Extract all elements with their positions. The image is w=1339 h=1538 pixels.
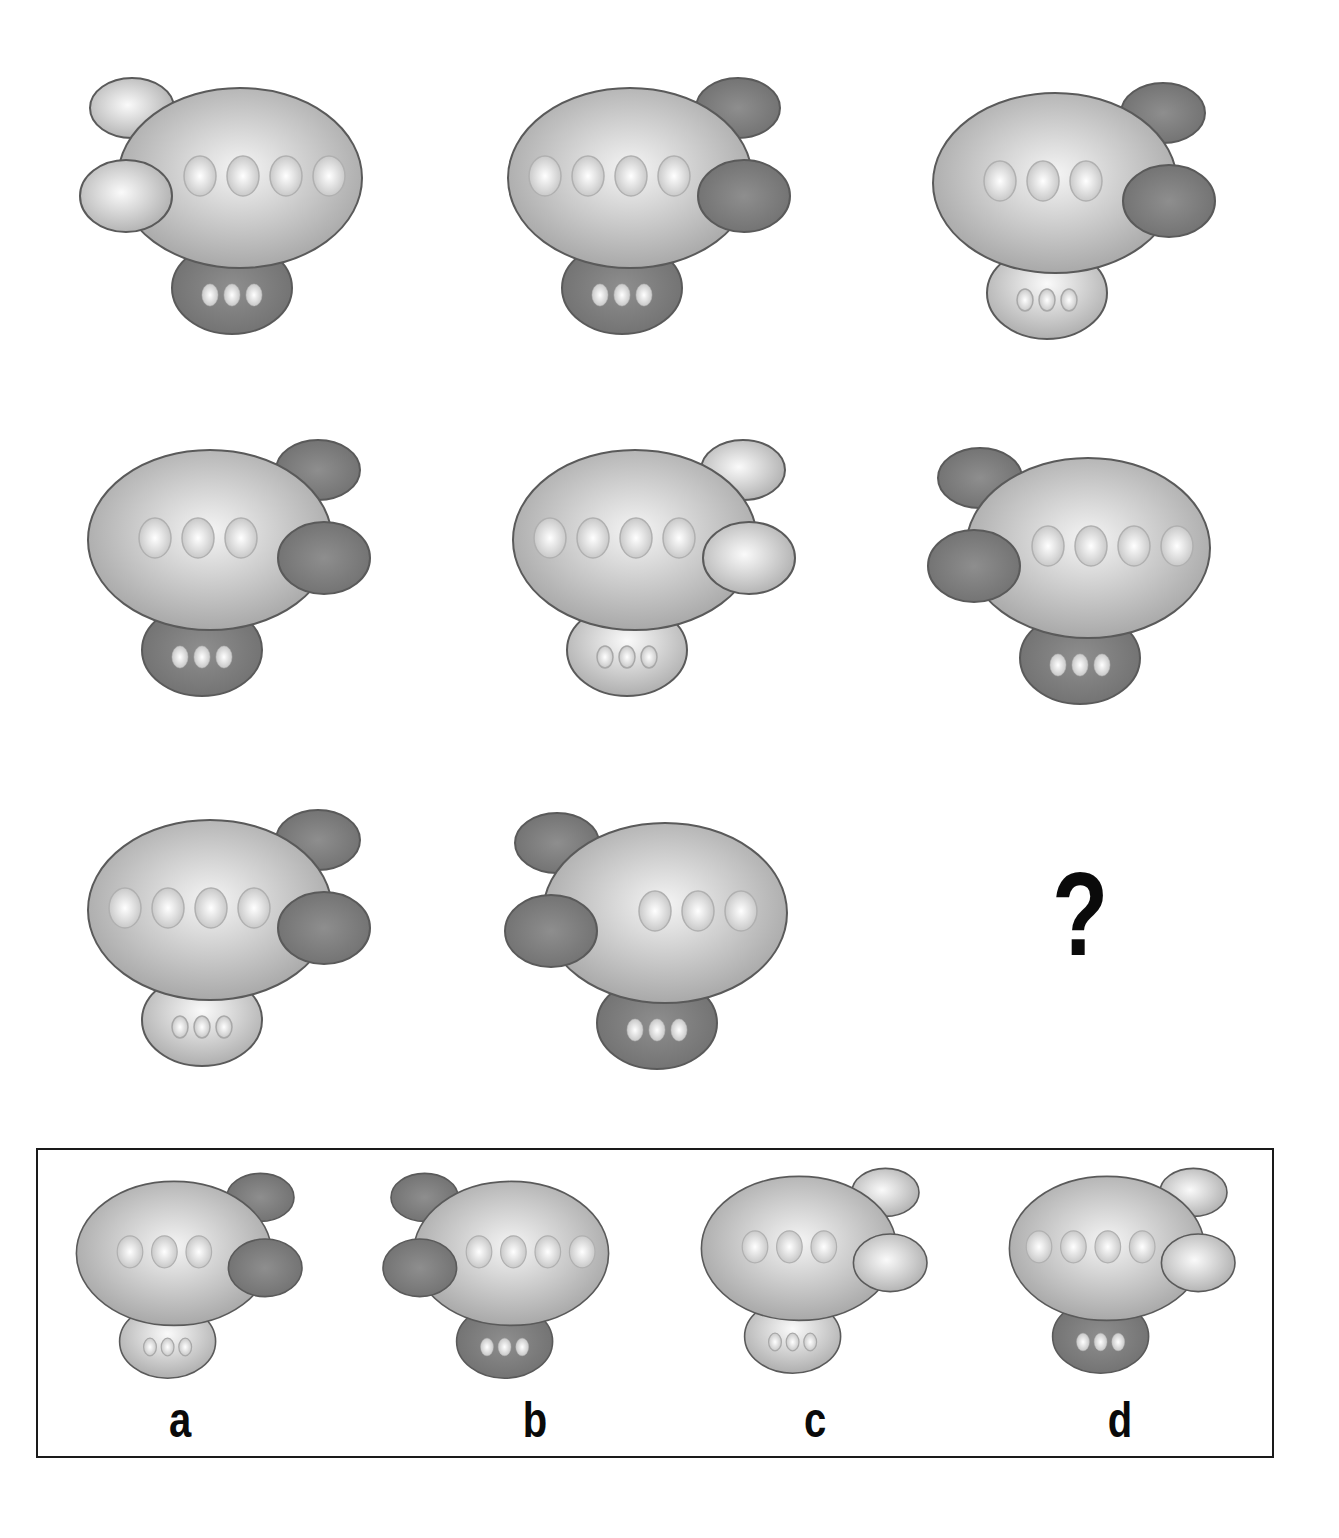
base-window-icon (1112, 1333, 1125, 1351)
base-window-icon (1094, 1333, 1107, 1351)
lower-pod-icon (505, 895, 597, 967)
lower-pod-icon (1161, 1234, 1235, 1292)
body-window-icon (572, 156, 604, 196)
body-window-icon (663, 518, 695, 558)
base-window-icon (786, 1333, 799, 1351)
lower-pod-icon (383, 1239, 457, 1297)
body-window-icon (811, 1231, 837, 1263)
grid-figure-6 (928, 450, 1228, 710)
body-window-icon (109, 888, 141, 928)
base-window-icon (1077, 1333, 1090, 1351)
body-window-icon (1026, 1231, 1052, 1263)
base-window-icon (1039, 289, 1055, 311)
lower-pod-icon (698, 160, 790, 232)
option-d-label[interactable]: d (1096, 1395, 1144, 1445)
option-b-figure[interactable] (383, 1175, 623, 1383)
grid-figure-7 (80, 812, 380, 1072)
body-window-icon (1075, 526, 1107, 566)
body-window-icon (117, 1236, 143, 1268)
base-window-icon (481, 1338, 494, 1356)
base-window-icon (179, 1338, 192, 1356)
option-a-label[interactable]: a (156, 1395, 204, 1445)
body-window-icon (270, 156, 302, 196)
body-window-icon (615, 156, 647, 196)
body-window-icon (1118, 526, 1150, 566)
base-window-icon (216, 1016, 232, 1038)
grid-figure-5 (505, 442, 805, 702)
base-window-icon (671, 1019, 687, 1041)
body-window-icon (313, 156, 345, 196)
body-window-icon (639, 891, 671, 931)
base-window-icon (144, 1338, 157, 1356)
grid-figure-2 (500, 80, 800, 340)
base-window-icon (597, 646, 613, 668)
body-window-icon (984, 161, 1016, 201)
base-window-icon (769, 1333, 782, 1351)
grid-figure-8 (505, 815, 805, 1075)
base-window-icon (804, 1333, 817, 1351)
body-window-icon (1095, 1231, 1121, 1263)
body-window-icon (466, 1236, 492, 1268)
option-c-label[interactable]: c (791, 1395, 839, 1445)
base-window-icon (161, 1338, 174, 1356)
lower-pod-icon (928, 530, 1020, 602)
base-window-icon (202, 284, 218, 306)
base-window-icon (194, 646, 210, 668)
body-window-icon (577, 518, 609, 558)
option-a-figure[interactable] (70, 1175, 310, 1383)
body-window-icon (195, 888, 227, 928)
base-window-icon (498, 1338, 511, 1356)
body-window-icon (225, 518, 257, 558)
body-window-icon (534, 518, 566, 558)
base-window-icon (1050, 654, 1066, 676)
base-window-icon (172, 1016, 188, 1038)
body-window-icon (152, 1236, 178, 1268)
body-window-icon (1129, 1231, 1155, 1263)
option-b-label[interactable]: b (511, 1395, 559, 1445)
missing-figure-question-mark: ? (1045, 855, 1115, 973)
base-window-icon (649, 1019, 665, 1041)
body-window-icon (569, 1236, 595, 1268)
body-window-icon (1161, 526, 1193, 566)
base-window-icon (516, 1338, 529, 1356)
base-window-icon (627, 1019, 643, 1041)
lower-pod-icon (703, 522, 795, 594)
base-window-icon (224, 284, 240, 306)
grid-figure-4 (80, 442, 380, 702)
lower-pod-icon (1123, 165, 1215, 237)
lower-pod-icon (80, 160, 172, 232)
base-window-icon (194, 1016, 210, 1038)
body-window-icon (1070, 161, 1102, 201)
base-window-icon (1017, 289, 1033, 311)
option-d-figure[interactable] (1003, 1170, 1243, 1378)
lower-pod-icon (278, 892, 370, 964)
body-window-icon (1032, 526, 1064, 566)
body-window-icon (742, 1231, 768, 1263)
lower-pod-icon (853, 1234, 927, 1292)
body-window-icon (227, 156, 259, 196)
body-window-icon (682, 891, 714, 931)
body-window-icon (535, 1236, 561, 1268)
body-window-icon (501, 1236, 527, 1268)
base-window-icon (1094, 654, 1110, 676)
base-window-icon (246, 284, 262, 306)
body-window-icon (658, 156, 690, 196)
body-window-icon (184, 156, 216, 196)
base-window-icon (614, 284, 630, 306)
body-window-icon (620, 518, 652, 558)
body-window-icon (139, 518, 171, 558)
body-window-icon (1061, 1231, 1087, 1263)
lower-pod-icon (278, 522, 370, 594)
base-window-icon (636, 284, 652, 306)
body-window-icon (238, 888, 270, 928)
body-window-icon (529, 156, 561, 196)
body-window-icon (1027, 161, 1059, 201)
body-window-icon (725, 891, 757, 931)
base-window-icon (1061, 289, 1077, 311)
option-c-figure[interactable] (695, 1170, 935, 1378)
base-window-icon (1072, 654, 1088, 676)
grid-figure-1 (80, 80, 380, 340)
lower-pod-icon (228, 1239, 302, 1297)
body-window-icon (777, 1231, 803, 1263)
base-window-icon (641, 646, 657, 668)
